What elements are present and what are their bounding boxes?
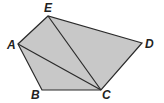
vertex-label-c: C xyxy=(102,88,111,102)
vertex-label-b: B xyxy=(31,88,40,102)
pentagon-diagram: A B C D E xyxy=(0,0,164,103)
vertex-label-a: A xyxy=(6,38,16,52)
vertex-label-e: E xyxy=(44,1,53,15)
vertex-label-d: D xyxy=(145,37,154,51)
